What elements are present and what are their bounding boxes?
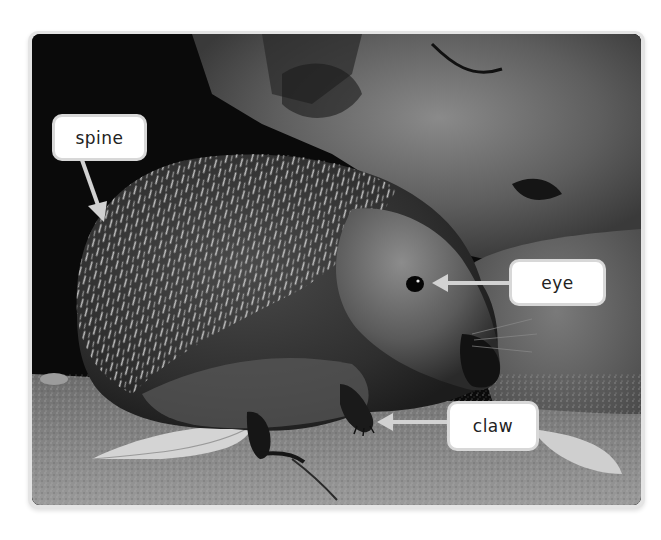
label-claw-text: claw	[473, 416, 513, 436]
label-claw: claw	[447, 401, 539, 451]
label-spine-text: spine	[75, 128, 123, 148]
label-spine: spine	[52, 114, 147, 161]
label-eye: eye	[509, 259, 606, 306]
label-eye-text: eye	[541, 273, 573, 293]
